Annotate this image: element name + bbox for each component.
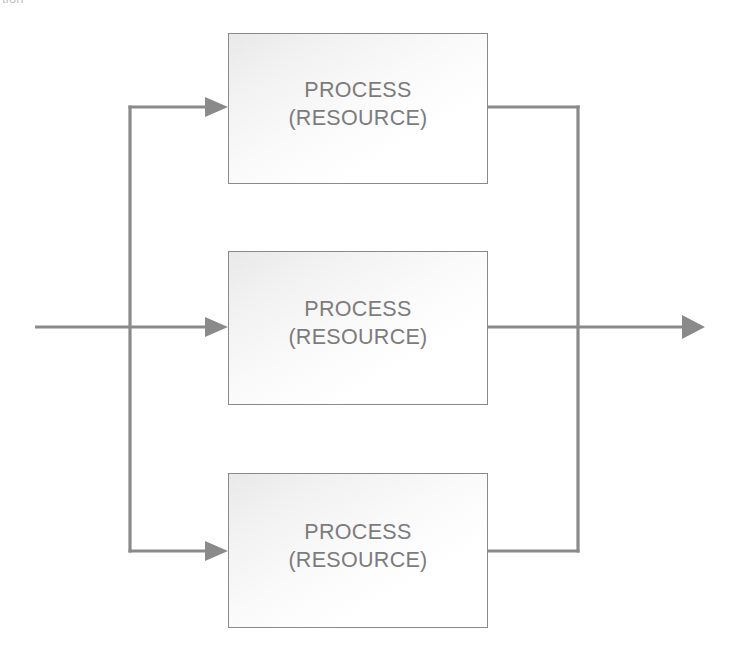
- process-box-1-line2: (RESOURCE): [288, 105, 427, 133]
- process-box-3-line1: PROCESS: [304, 519, 411, 547]
- diagram-canvas: tion: [0, 0, 734, 665]
- process-box-1-line1: PROCESS: [304, 77, 411, 105]
- process-box-2-line2: (RESOURCE): [288, 324, 427, 352]
- process-box-3-line2: (RESOURCE): [288, 547, 427, 575]
- arrowhead-output: [682, 315, 705, 339]
- process-box-3-text: PROCESS (RESOURCE): [288, 519, 427, 574]
- process-box-2[interactable]: PROCESS (RESOURCE): [228, 251, 488, 405]
- process-box-1-text: PROCESS (RESOURCE): [288, 77, 427, 132]
- process-box-2-text: PROCESS (RESOURCE): [288, 296, 427, 351]
- process-box-3[interactable]: PROCESS (RESOURCE): [228, 473, 488, 628]
- process-box-1[interactable]: PROCESS (RESOURCE): [228, 33, 488, 184]
- arrowhead-into-box2: [205, 317, 228, 337]
- arrowhead-into-box1: [205, 97, 228, 117]
- process-box-2-line1: PROCESS: [304, 296, 411, 324]
- arrowhead-into-box3: [205, 541, 228, 561]
